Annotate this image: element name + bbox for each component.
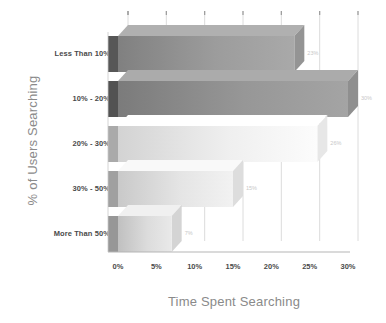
bar-front-face [118,216,172,252]
bar [108,25,304,72]
bar-front-face [118,126,317,162]
bar [108,70,358,117]
bar-top-face [118,160,243,171]
bar-left-face [108,126,118,162]
bar-top-face [118,115,327,126]
bar-left-face [108,81,118,117]
bar-front-face [118,36,294,72]
x-axis-tick-label: 25% [290,262,330,271]
bar-top-face [118,25,304,36]
bar [108,205,182,252]
x-axis-tick-label: 20% [251,262,291,271]
bar-front-face [118,171,233,207]
x-axis-tick-label: 0% [98,262,138,271]
bar-value-label: 7% [185,230,193,236]
x-axis-tick-label: 10% [175,262,215,271]
bar-value-label: 30% [361,95,372,101]
chart-svg [0,0,386,323]
bar-left-face [108,36,118,72]
plot-area: 23%30%26%15%7%0%5%10%15%20%25%30% [0,0,386,323]
bar-front-face [118,81,348,117]
bar-left-face [108,171,118,207]
bar-top-face [118,70,358,81]
x-axis-tick-label: 15% [213,262,253,271]
bar-value-label: 23% [307,50,318,56]
bar-left-face [108,216,118,252]
x-axis-tick-label: 30% [328,262,368,271]
bar-value-label: 15% [246,185,257,191]
bar [108,115,327,162]
chart-container: % of Users Searching Time Spent Searchin… [0,0,386,323]
bar-top-face [118,205,182,216]
x-axis-tick-label: 5% [136,262,176,271]
bar-value-label: 26% [330,140,341,146]
bar [108,160,243,207]
